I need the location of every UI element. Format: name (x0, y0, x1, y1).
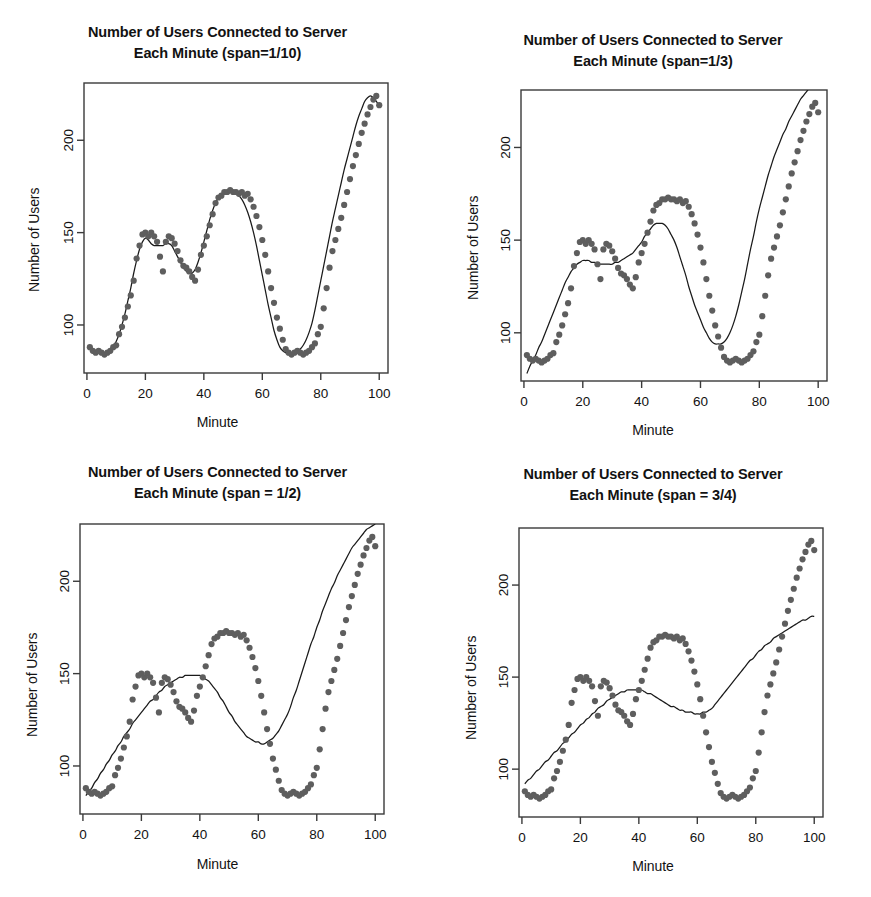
x-axis-label: Minute (435, 422, 871, 438)
data-point (210, 211, 216, 217)
data-point (756, 749, 762, 755)
data-point (353, 152, 359, 158)
data-point (358, 562, 364, 568)
data-point (683, 641, 689, 647)
data-point (343, 617, 349, 623)
data-point (697, 696, 703, 702)
data-point (621, 713, 627, 719)
data-point (786, 183, 792, 189)
data-point (803, 118, 809, 124)
data-point (131, 278, 137, 284)
data-point (324, 285, 330, 291)
data-point (759, 729, 765, 735)
data-point (750, 348, 756, 354)
data-point (360, 552, 366, 558)
y-axis-label: Number of Users (26, 188, 42, 292)
data-point (589, 683, 595, 689)
data-point (147, 674, 153, 680)
data-point (340, 630, 346, 636)
data-point (644, 230, 650, 236)
data-point (594, 261, 600, 267)
data-point (151, 233, 157, 239)
data-point (337, 643, 343, 649)
data-point (768, 256, 774, 262)
data-point (122, 314, 128, 320)
data-point (761, 709, 767, 715)
data-point (692, 220, 698, 226)
data-point (159, 680, 165, 686)
data-point (331, 667, 337, 673)
data-point (806, 111, 812, 117)
data-point (364, 111, 370, 117)
panel-span-1-10: Number of Users Connected to Server Each… (0, 0, 435, 450)
data-point (627, 722, 633, 728)
data-point (797, 565, 803, 571)
data-point (764, 692, 770, 698)
data-point (363, 545, 369, 551)
data-point (172, 241, 178, 247)
data-point (650, 207, 656, 213)
data-point (595, 713, 601, 719)
data-point (188, 719, 194, 725)
plot-area: 020406080100100150200 (0, 450, 435, 897)
data-point (756, 332, 762, 338)
data-point (645, 656, 651, 662)
data-point (794, 148, 800, 154)
data-point (551, 775, 557, 781)
data-point (630, 711, 636, 717)
data-point (647, 219, 653, 225)
x-axis-label: Minute (435, 858, 871, 874)
data-points (83, 534, 379, 799)
data-point (771, 244, 777, 250)
plot-frame (519, 528, 823, 817)
data-point (362, 121, 368, 127)
data-point (753, 768, 759, 774)
y-axis-label: Number of Users (463, 636, 479, 740)
data-point (639, 250, 645, 256)
data-point (256, 224, 262, 230)
data-point (609, 692, 615, 698)
data-point (255, 678, 261, 684)
data-point (115, 765, 121, 771)
x-tick-label: 0 (79, 827, 87, 842)
plot-area: 020406080100100150200 (435, 0, 871, 450)
plot-area: 020406080100100150200 (0, 0, 435, 450)
data-point (785, 608, 791, 614)
x-tick-label: 60 (690, 830, 705, 845)
data-point (356, 141, 362, 147)
data-point (277, 326, 283, 332)
x-tick-label: 100 (368, 386, 391, 401)
data-point (244, 637, 250, 643)
data-point (315, 331, 321, 337)
data-point (715, 333, 721, 339)
data-point (783, 196, 789, 202)
y-axis-label: Number of Users (465, 196, 481, 300)
data-point (264, 726, 270, 732)
data-point (700, 713, 706, 719)
data-point (712, 770, 718, 776)
data-point (212, 200, 218, 206)
x-tick-label: 100 (807, 394, 830, 409)
data-point (767, 681, 773, 687)
data-point (373, 93, 379, 99)
data-point (206, 652, 212, 658)
data-point (173, 698, 179, 704)
data-point (568, 285, 574, 291)
data-point (636, 259, 642, 265)
data-point (325, 689, 331, 695)
data-point (367, 104, 373, 110)
data-point (574, 250, 580, 256)
plot-frame (521, 90, 827, 381)
data-point (271, 300, 277, 306)
plot-area: 020406080100100150200 (435, 450, 871, 897)
data-point (321, 305, 327, 311)
data-point (612, 702, 618, 708)
data-point (797, 137, 803, 143)
loess-smooth-line (527, 83, 818, 374)
data-point (160, 268, 166, 274)
data-point (685, 648, 691, 654)
data-point (346, 604, 352, 610)
x-tick-label: 40 (192, 827, 207, 842)
data-point (250, 204, 256, 210)
x-tick-label: 40 (631, 830, 646, 845)
